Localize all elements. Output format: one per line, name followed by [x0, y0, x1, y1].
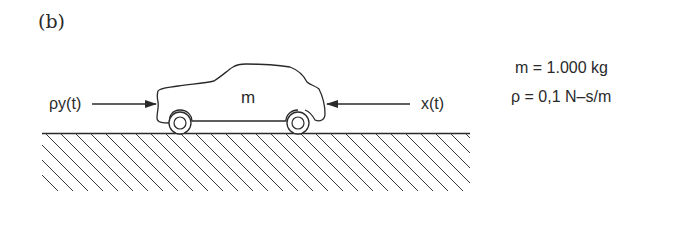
front-left-wheel: [169, 112, 191, 134]
mass-label: m: [241, 88, 255, 107]
param-damping: ρ = 0,1 N–s/m: [511, 88, 611, 106]
rear-right-wheel: [287, 112, 309, 134]
ground: [0, 133, 523, 191]
ground-hatching: [0, 133, 523, 191]
car: m: [157, 64, 325, 134]
param-mass: m = 1.000 kg: [515, 59, 608, 77]
left-force-label: ρy(t): [49, 95, 81, 112]
right-force-label: x(t): [421, 95, 444, 112]
